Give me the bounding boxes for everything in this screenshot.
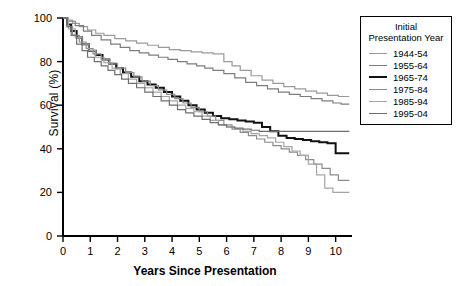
legend-items: 1944-541955-641965-741975-841985-941995-… (365, 47, 447, 119)
svg-text:1: 1 (87, 245, 93, 257)
svg-text:7: 7 (251, 245, 257, 257)
legend-label: 1975-84 (393, 84, 428, 95)
svg-text:9: 9 (305, 245, 311, 257)
legend-item-1975-84: 1975-84 (365, 83, 447, 95)
legend-label: 1955-64 (393, 60, 428, 71)
legend-item-1985-94: 1985-94 (365, 95, 447, 107)
legend: Initial Presentation Year 1944-541955-64… (360, 16, 452, 125)
legend-title: Initial Presentation Year (365, 21, 447, 43)
legend-swatch-icon (369, 89, 387, 90)
svg-text:0: 0 (46, 230, 52, 242)
svg-text:3: 3 (142, 245, 148, 257)
legend-item-1995-04: 1995-04 (365, 107, 447, 119)
svg-text:6: 6 (224, 245, 230, 257)
legend-item-1944-54: 1944-54 (365, 47, 447, 59)
svg-text:5: 5 (196, 245, 202, 257)
legend-swatch-icon (369, 113, 387, 114)
svg-text:10: 10 (330, 245, 342, 257)
x-axis-ticks: 012345678910 (60, 236, 342, 257)
legend-label: 1995-04 (393, 108, 428, 119)
legend-item-1955-64: 1955-64 (365, 59, 447, 71)
svg-text:4: 4 (169, 245, 175, 257)
legend-item-1965-74: 1965-74 (365, 71, 447, 83)
legend-label: 1944-54 (393, 48, 428, 59)
svg-text:2: 2 (114, 245, 120, 257)
legend-swatch-icon (369, 65, 387, 66)
legend-swatch-icon (369, 53, 387, 54)
survival-curves (63, 18, 349, 192)
legend-label: 1965-74 (393, 72, 428, 83)
axes (63, 18, 352, 236)
legend-swatch-icon (369, 76, 387, 78)
svg-text:0: 0 (60, 245, 66, 257)
legend-title-line2: Presentation Year (365, 32, 447, 43)
legend-swatch-icon (369, 101, 387, 102)
y-axis-label: Survival (%) (47, 43, 61, 163)
svg-text:100: 100 (34, 12, 52, 24)
x-axis-label: Years Since Presentation (55, 264, 355, 278)
legend-title-line1: Initial (365, 21, 447, 32)
legend-label: 1985-94 (393, 96, 428, 107)
survival-chart: 020406080100 012345678910 Survival (%) Y… (0, 0, 464, 286)
svg-text:20: 20 (40, 186, 52, 198)
svg-text:8: 8 (278, 245, 284, 257)
